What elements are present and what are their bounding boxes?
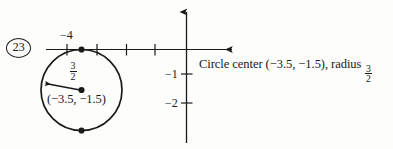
radius-numerator: 3 bbox=[70, 61, 77, 71]
y-tick-label-neg2: −2 bbox=[165, 97, 178, 109]
bottom-intercept-dot bbox=[78, 127, 84, 133]
figure-caption: Circle center (−3.5, −1.5), radius 3 2 bbox=[199, 58, 372, 84]
radius-arrow bbox=[46, 84, 81, 91]
radius-value-label: 3 2 bbox=[69, 61, 77, 81]
y-tick-label-neg1: −1 bbox=[165, 68, 178, 80]
circle-graph-figure: 23 −4 −1 −2 3 2 (−3.5, −1.5) Circle cent… bbox=[0, 0, 393, 149]
y-axis bbox=[181, 12, 193, 143]
caption-text: Circle center (−3.5, −1.5), radius bbox=[199, 57, 364, 71]
x-tick-label-neg4: −4 bbox=[60, 29, 73, 41]
radius-fraction: 3 2 bbox=[70, 61, 77, 81]
caption-radius-numerator: 3 bbox=[365, 64, 372, 73]
caption-radius-fraction: 3 2 bbox=[365, 64, 372, 84]
problem-number-badge: 23 bbox=[6, 38, 31, 58]
caption-radius-denominator: 2 bbox=[365, 73, 372, 83]
radius-denominator: 2 bbox=[70, 71, 77, 82]
center-coordinate-label: (−3.5, −1.5) bbox=[47, 93, 106, 106]
top-intercept-dot bbox=[78, 46, 84, 52]
